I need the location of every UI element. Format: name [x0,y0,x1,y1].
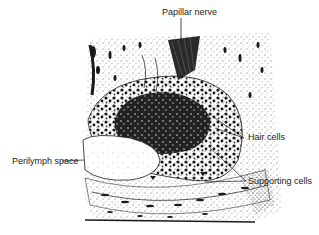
label-perilymph-space: Perilymph space [12,157,79,166]
label-supporting-cells: Supporting cells [248,177,312,186]
diagram-illustration [0,0,319,235]
label-papillar-nerve: Papillar nerve [162,8,217,17]
label-hair-cells: Hair cells [248,133,285,142]
